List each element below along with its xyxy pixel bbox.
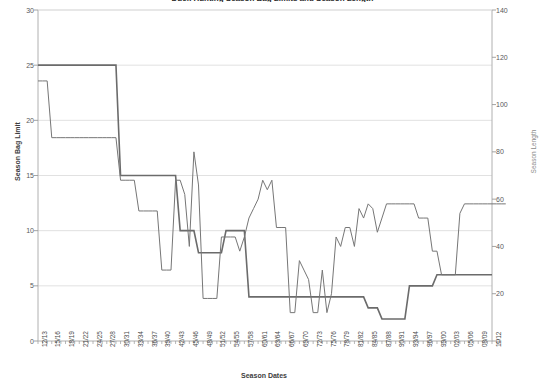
x-tick-label: 18/19 <box>68 331 75 347</box>
x-tick-label: 02/03 <box>453 331 460 347</box>
x-tick-label: 24/25 <box>96 331 103 347</box>
x-tick-label: 72/73 <box>316 331 323 347</box>
x-tick-label: 05/06 <box>467 331 474 347</box>
x-tick-label: 99/00 <box>440 331 447 347</box>
x-tick-label: 93/94 <box>412 331 419 347</box>
x-tick-label: 11/12 <box>495 332 502 347</box>
x-tick-label: 45/46 <box>192 331 199 347</box>
x-tick-label: 66/67 <box>288 331 295 347</box>
x-tick-label: 96/97 <box>426 331 433 347</box>
x-tick-label: 90/91 <box>398 331 405 347</box>
x-tick-label: 27/28 <box>109 331 116 347</box>
x-tick-label: 36/37 <box>151 331 158 347</box>
x-tick-label: 08/09 <box>481 331 488 347</box>
x-axis-ticks: 12/1315/1618/1921/2224/2527/2830/3133/34… <box>0 0 545 386</box>
x-tick-label: 42/43 <box>178 331 185 347</box>
x-tick-label: 69/70 <box>302 331 309 347</box>
x-tick-label: 81/82 <box>357 331 364 347</box>
x-tick-label: 48/49 <box>206 331 213 347</box>
x-tick-label: 54/55 <box>233 331 240 347</box>
x-tick-label: 63/64 <box>274 331 281 347</box>
x-tick-label: 57/58 <box>247 331 254 347</box>
x-tick-label: 30/31 <box>123 331 130 347</box>
x-tick-label: 21/22 <box>82 331 89 347</box>
x-tick-label: 51/52 <box>219 331 226 347</box>
x-tick-label: 39/40 <box>164 331 171 347</box>
x-tick-label: 12/13 <box>41 331 48 347</box>
x-tick-label: 78/79 <box>343 331 350 347</box>
chart-root: Duck Hunting Season Bag Limits and Seaso… <box>0 0 545 386</box>
x-tick-label: 15/16 <box>54 331 61 347</box>
x-tick-label: 33/34 <box>137 331 144 347</box>
x-tick-label: 60/61 <box>261 331 268 347</box>
x-tick-label: 87/88 <box>385 331 392 347</box>
x-tick-label: 84/85 <box>371 331 378 347</box>
x-tick-label: 75/76 <box>330 331 337 347</box>
